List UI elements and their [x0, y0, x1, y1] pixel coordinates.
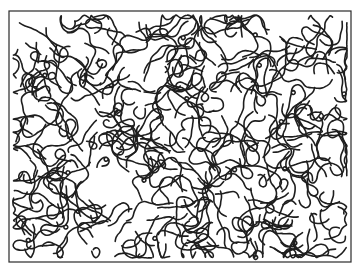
- squiggle-line: [60, 16, 81, 33]
- squiggle-lines: [13, 15, 347, 259]
- squiggle-line: [152, 175, 183, 205]
- squiggle-line: [14, 148, 31, 159]
- squiggle-line: [46, 61, 77, 94]
- squiggle-line: [301, 172, 318, 196]
- squiggle-line: [273, 149, 299, 153]
- squiggle-line: [298, 16, 333, 62]
- squiggle-line: [127, 202, 156, 221]
- squiggle-line: [134, 107, 146, 119]
- squiggle-line: [47, 204, 59, 219]
- squiggle-line: [216, 192, 239, 198]
- squiggle-line: [214, 141, 257, 156]
- squiggle-line: [147, 214, 187, 221]
- squiggle-line: [121, 89, 140, 105]
- squiggle-line: [258, 175, 266, 187]
- squiggle-line: [71, 155, 88, 217]
- squiggle-line: [314, 63, 335, 74]
- squiggle-line: [218, 191, 226, 247]
- squiggle-line: [299, 179, 310, 208]
- squiggle-line: [92, 248, 100, 258]
- squiggle-line: [217, 228, 237, 243]
- squiggle-line: [85, 19, 125, 37]
- squiggle-line: [13, 58, 19, 78]
- squiggle-line: [20, 23, 64, 58]
- drawing-canvas: [0, 0, 359, 271]
- squiggle-line: [311, 213, 317, 241]
- squiggle-line: [84, 43, 96, 87]
- squiggle-line: [115, 222, 131, 241]
- squiggle-line: [185, 116, 193, 147]
- squiggle-line: [128, 81, 154, 92]
- squiggle-line: [97, 157, 109, 167]
- squiggle-line: [100, 54, 116, 85]
- squiggle-line: [210, 98, 224, 112]
- squiggle-line: [286, 37, 318, 66]
- squiggle-line: [117, 22, 148, 53]
